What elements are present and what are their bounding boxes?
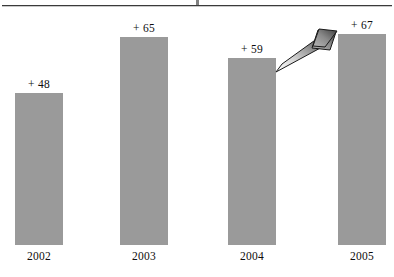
bar-label-2005: 2005	[338, 250, 386, 262]
bar-2004	[228, 58, 276, 245]
bar-value-2004: + 59	[228, 43, 276, 55]
bar-label-2003: 2003	[120, 250, 168, 262]
bar-2002	[15, 93, 63, 245]
bar-label-2002: 2002	[15, 250, 63, 262]
bar-label-2004: 2004	[228, 250, 276, 262]
bar-value-2002: + 48	[15, 78, 63, 90]
bar-value-2005: + 67	[338, 19, 386, 31]
plot-area: + 48 2002 + 65 2003 + 59 2004 + 67 2005	[0, 0, 394, 277]
bar-2003	[120, 37, 168, 245]
bar-value-2003: + 65	[120, 22, 168, 34]
growth-arrow-icon	[272, 26, 340, 76]
bar-2005	[338, 34, 386, 245]
chart-container: + 48 2002 + 65 2003 + 59 2004 + 67 2005	[0, 0, 394, 277]
